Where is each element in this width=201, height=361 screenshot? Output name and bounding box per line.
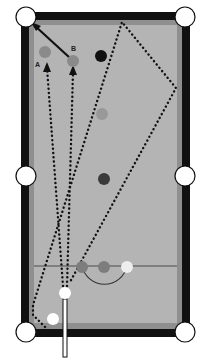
ball-kitchen-2 (98, 261, 110, 273)
label-a: A (35, 61, 40, 68)
pocket-bottom-left (16, 322, 36, 342)
label-b: B (71, 45, 76, 52)
pocket-mid-left (16, 166, 36, 186)
cue-ball (59, 287, 71, 299)
pocket-top-right (175, 7, 195, 27)
pocket-mid-right (175, 166, 195, 186)
ball-dark-mid (98, 173, 110, 185)
ball-kitchen-3 (121, 261, 133, 273)
pocket-top-left (16, 7, 36, 27)
ball-corner-white (47, 313, 59, 325)
pocket-bottom-right (175, 322, 195, 342)
cue-stick (63, 299, 67, 357)
ball-target-b (67, 55, 79, 67)
ball-black-top (95, 50, 107, 62)
ball-kitchen-1 (76, 261, 88, 273)
billiards-table-diagram: A B (0, 0, 201, 361)
ball-light-gray (96, 108, 108, 120)
ball-target-a (39, 46, 51, 58)
